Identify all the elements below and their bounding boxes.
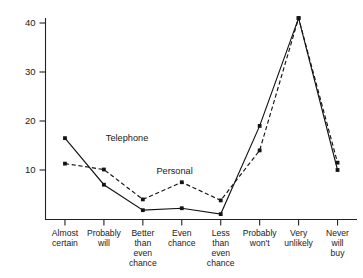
y-axis-tick-label: 30	[25, 66, 36, 77]
data-point-marker	[219, 198, 223, 202]
data-point-marker	[63, 136, 67, 140]
x-axis-tick-label: Veryunlikely	[284, 228, 313, 248]
series-line-personal	[65, 18, 338, 200]
x-axis-tick-label: Almostcertain	[52, 228, 79, 248]
series-annotations: TelephonePersonal	[106, 133, 193, 176]
data-series-group	[65, 18, 338, 214]
x-axis-tick-labels: AlmostcertainProbablywillBetterthanevenc…	[52, 228, 349, 269]
data-point-marker	[102, 183, 106, 187]
data-point-marker	[336, 161, 340, 165]
x-axis-tick-label: Betterthanevenchance	[129, 228, 157, 269]
y-axis-tick-label: 40	[25, 17, 36, 28]
chart-container: 10203040 AlmostcertainProbablywillBetter…	[0, 0, 363, 278]
data-point-marker	[63, 162, 67, 166]
x-axis-tick-label: Probablywon't	[243, 228, 278, 248]
line-chart: 10203040 AlmostcertainProbablywillBetter…	[0, 0, 363, 278]
data-point-marker	[102, 168, 106, 172]
series-label-telephone: Telephone	[106, 133, 148, 143]
data-point-marker	[336, 168, 340, 172]
data-point-marker	[180, 206, 184, 210]
data-point-marker	[219, 212, 223, 216]
data-point-marker	[141, 208, 145, 212]
series-label-personal: Personal	[156, 166, 192, 176]
data-point-marker	[297, 16, 301, 20]
x-axis-ticks	[65, 220, 338, 226]
data-markers-group	[63, 16, 339, 216]
y-axis-ticks	[40, 23, 46, 170]
x-axis: AlmostcertainProbablywillBetterthanevenc…	[46, 220, 358, 269]
y-axis: 10203040	[25, 17, 46, 220]
data-point-marker	[180, 180, 184, 184]
y-axis-tick-label: 20	[25, 115, 36, 126]
data-point-marker	[141, 198, 145, 202]
x-axis-tick-label: Neverwillbuy	[326, 228, 349, 258]
x-axis-tick-label: Probablywill	[87, 228, 122, 248]
y-axis-tick-label: 10	[25, 164, 36, 175]
x-axis-tick-label: Lessthanevenchance	[207, 228, 235, 269]
data-point-marker	[258, 124, 262, 128]
y-axis-tick-labels: 10203040	[25, 17, 36, 175]
x-axis-tick-label: Evenchance	[168, 228, 196, 248]
data-point-marker	[258, 149, 262, 153]
series-line-telephone	[65, 18, 338, 214]
